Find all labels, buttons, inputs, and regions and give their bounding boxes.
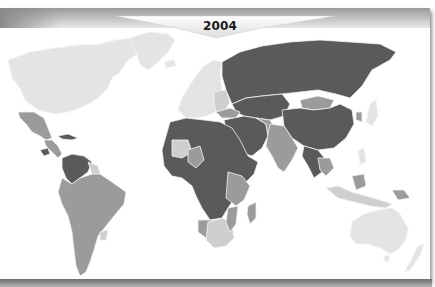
indonesia-region — [326, 186, 392, 208]
japan-region — [366, 100, 378, 126]
world-map — [0, 28, 430, 280]
mexico-region — [18, 112, 52, 140]
iceland-region — [164, 60, 176, 68]
bottom-shadow-bar — [0, 279, 432, 287]
new-zealand-region — [404, 244, 424, 272]
korea-region — [356, 112, 362, 122]
year-label: 2004 — [200, 19, 240, 33]
new-guinea-region — [392, 190, 410, 200]
borneo-region — [352, 174, 366, 190]
guianas-region — [88, 162, 100, 174]
madagascar-region — [247, 202, 256, 224]
australia-region — [350, 208, 408, 254]
guatemala-region — [40, 148, 50, 156]
south-america-region — [58, 174, 126, 276]
cuba-region — [58, 134, 78, 140]
philippines-region — [358, 148, 366, 164]
tasmania-region — [384, 256, 390, 262]
uruguay-region — [100, 230, 108, 240]
